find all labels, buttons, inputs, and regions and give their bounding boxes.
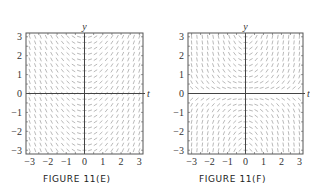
slope-segment	[277, 40, 278, 44]
slope-segment	[111, 46, 113, 49]
slope-segment	[218, 35, 219, 39]
slope-segment	[40, 148, 41, 152]
slope-segment	[249, 110, 253, 111]
slope-segment	[51, 75, 53, 79]
slope-segment	[116, 75, 118, 79]
slope-segment	[29, 131, 30, 135]
slope-segment	[299, 69, 300, 73]
slope-segment	[111, 109, 113, 112]
slope-segment	[207, 58, 208, 62]
slope-segment	[277, 148, 278, 152]
slope-segment	[277, 120, 278, 124]
slope-segment	[218, 69, 220, 73]
slope-segment	[111, 69, 113, 72]
slope-segment	[51, 97, 53, 101]
slope-segment	[67, 64, 70, 67]
slope-segment	[234, 46, 236, 49]
slope-segment	[239, 149, 242, 152]
slope-segment	[218, 41, 219, 45]
slope-segment	[238, 121, 242, 123]
slope-segment	[111, 103, 113, 106]
slope-segment	[139, 143, 140, 147]
slope-segment	[222, 81, 225, 83]
slope-segment	[45, 126, 47, 130]
slope-segment	[111, 132, 113, 135]
slope-segment	[139, 35, 140, 39]
slope-segment	[56, 63, 58, 66]
slope-segment	[72, 115, 75, 117]
slope-segment	[227, 87, 231, 88]
x-tick-label: −2	[204, 156, 215, 167]
slope-segment	[128, 131, 129, 135]
slope-segment	[277, 81, 280, 84]
slope-segment	[34, 52, 35, 56]
slope-segment	[105, 52, 108, 55]
slope-segment	[191, 63, 192, 67]
slope-segment	[218, 148, 219, 152]
slope-segment	[233, 87, 237, 88]
slope-segment	[223, 69, 225, 72]
slope-segment	[238, 64, 242, 66]
slope-segment	[45, 46, 47, 50]
slope-segment	[128, 120, 129, 124]
slope-segment	[260, 109, 263, 112]
slope-segment	[277, 35, 278, 39]
slope-segment	[265, 98, 269, 99]
slope-segment	[202, 109, 204, 113]
slope-segment	[61, 35, 64, 38]
slope-segment	[128, 109, 129, 113]
slope-segment	[40, 126, 41, 130]
slope-segment	[99, 149, 102, 152]
slope-segment	[294, 63, 295, 67]
slope-segment	[29, 52, 30, 56]
slope-segment	[222, 98, 226, 99]
slope-segment	[249, 149, 252, 152]
slope-segment	[29, 120, 30, 124]
slope-segment	[61, 137, 64, 140]
slope-segment	[217, 98, 221, 100]
slope-segment	[77, 99, 81, 100]
slope-segment	[56, 115, 58, 118]
slope-segment	[67, 86, 70, 89]
slope-segment	[283, 120, 284, 124]
slope-segment	[122, 58, 124, 62]
slope-segment	[261, 143, 262, 147]
slope-segment	[111, 52, 113, 55]
slope-segment	[56, 41, 58, 44]
slope-segment	[255, 35, 257, 39]
slope-segment	[77, 82, 81, 83]
slope-segment	[299, 46, 300, 50]
slope-segment	[272, 114, 274, 118]
slope-segment	[282, 81, 284, 84]
slope-segment	[212, 69, 214, 73]
slope-segment	[111, 143, 113, 146]
slope-segment	[128, 63, 129, 67]
slope-segment	[283, 143, 284, 147]
slope-segment	[61, 64, 64, 67]
slope-segment	[72, 36, 75, 38]
slope-segment	[265, 104, 268, 106]
slope-segment	[277, 137, 278, 141]
slope-segment	[116, 109, 118, 113]
slope-segment	[67, 126, 70, 129]
slope-segment	[72, 121, 75, 123]
slope-segment	[51, 80, 53, 84]
slope-segment	[223, 131, 224, 135]
slope-segment	[298, 86, 301, 89]
slope-segment	[249, 47, 252, 49]
slope-segment	[94, 41, 97, 43]
slope-segment	[111, 58, 113, 61]
slope-segment	[61, 58, 64, 61]
slope-segment	[105, 115, 108, 118]
slope-segment	[260, 75, 263, 78]
slope-segment	[207, 81, 209, 84]
slope-segment	[197, 120, 198, 124]
slope-segment	[67, 58, 70, 61]
slope-segment	[249, 132, 252, 134]
slope-segment	[29, 126, 30, 130]
slope-segment	[116, 131, 118, 135]
slope-segment	[56, 52, 58, 55]
slope-segment	[217, 103, 220, 106]
x-tick-label: 3	[297, 156, 302, 167]
slope-segment	[238, 104, 242, 105]
